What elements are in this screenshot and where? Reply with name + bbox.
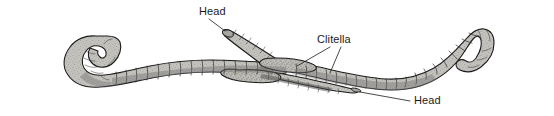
label-head-lower: Head xyxy=(414,94,441,106)
label-head-upper: Head xyxy=(199,5,226,17)
earthworm-mating-figure: Head Clitella Head xyxy=(0,0,554,116)
label-clitella: Clitella xyxy=(317,33,352,45)
illustration-canvas: Head Clitella Head xyxy=(0,0,554,116)
